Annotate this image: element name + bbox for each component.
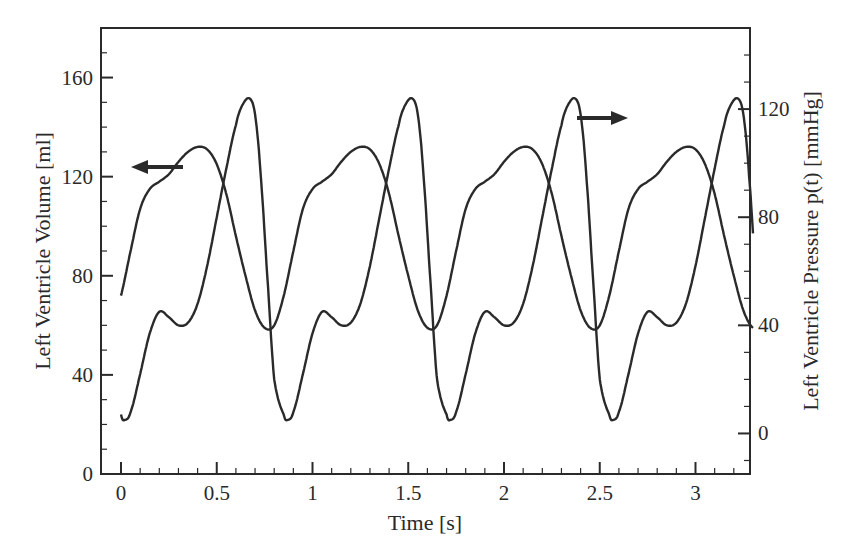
x-tick-label: 2 <box>499 481 510 505</box>
y-left-tick-label: 0 <box>83 462 94 486</box>
volume-curve <box>121 147 753 330</box>
x-tick-label: 3 <box>690 481 701 505</box>
y-right-tick-label: 80 <box>758 205 779 229</box>
pressure-curve <box>121 98 753 420</box>
x-tick-label: 0.5 <box>204 481 230 505</box>
plot-frame <box>101 28 750 474</box>
axis-ticks <box>101 28 750 474</box>
y-right-tick-label: 120 <box>758 97 790 121</box>
y-left-tick-label: 40 <box>72 363 93 387</box>
x-tick-label: 1.5 <box>395 481 421 505</box>
y-right-axis-title: Left Ventricle Pressure p(t) [mmHg] <box>798 91 823 411</box>
x-tick-label: 1 <box>307 481 318 505</box>
y-left-tick-label: 120 <box>62 165 94 189</box>
x-tick-label: 2.5 <box>587 481 613 505</box>
y-left-tick-label: 160 <box>62 66 94 90</box>
x-axis-title: Time [s] <box>388 510 462 535</box>
dual-axis-line-chart: 00.511.522.530408012016004080120 Time [s… <box>0 0 853 557</box>
right-arrowhead-icon <box>611 111 628 125</box>
plot-curves <box>121 98 753 420</box>
y-right-tick-label: 0 <box>758 421 769 445</box>
x-tick-label: 0 <box>116 481 127 505</box>
y-left-tick-label: 80 <box>72 264 93 288</box>
axis-tick-labels: 00.511.522.530408012016004080120 <box>62 66 790 505</box>
left-arrowhead-icon <box>131 160 148 174</box>
y-left-axis-title: Left Ventricle Volume [ml] <box>30 132 55 370</box>
y-right-tick-label: 40 <box>758 313 779 337</box>
